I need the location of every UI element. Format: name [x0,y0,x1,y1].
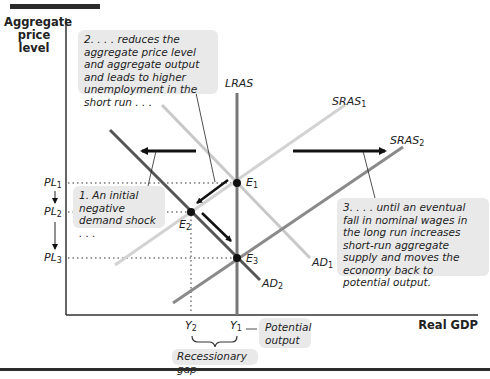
ad2-label: AD2 [262,277,283,291]
bottom-rule [0,368,490,371]
sras2-label: SRAS2 [390,134,424,148]
annotation-potential-output: Potential output [259,318,311,348]
e1-point [233,179,241,187]
leader-step2 [196,93,215,182]
y2-label: Y2 [185,319,197,333]
e2-point [187,208,195,216]
annotation-step3: 3. . . . until an eventual fall in nomin… [337,198,489,276]
e1-label: E1 [246,176,258,190]
e3-point [233,254,241,262]
recessionary-gap-brace [192,336,237,347]
pl3-label: PL3 [44,251,62,265]
lras-label: LRAS [225,77,253,90]
annotation-step2: 2. . . . reduces the aggregate price lev… [78,30,218,94]
annotation-recessionary-gap: Recessionary gap [172,349,258,365]
y-axis-label: Aggregate price level [4,16,64,55]
e2-label: E2 [179,218,191,232]
ad1-label: AD1 [312,256,333,270]
sras1-label: SRAS1 [332,95,366,109]
x-axis-label: Real GDP [418,318,478,332]
pl1-label: PL1 [44,176,62,190]
annotation-step1: 1. An initial negative demand shock . . … [73,186,165,228]
pl2-label: PL2 [44,205,62,219]
y1-label: Y1 [230,319,242,333]
e3-label: E3 [246,252,258,266]
